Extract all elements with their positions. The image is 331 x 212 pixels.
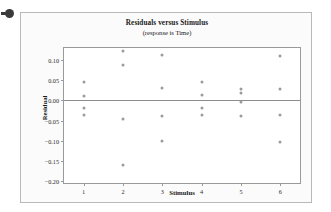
data-point xyxy=(122,163,125,166)
y-axis-tick xyxy=(61,141,64,142)
data-point xyxy=(279,140,282,143)
y-axis-tick xyxy=(61,161,64,162)
data-point xyxy=(161,87,164,90)
zero-reference-line xyxy=(64,100,300,101)
y-axis-tick xyxy=(61,181,64,182)
data-point xyxy=(200,80,203,83)
plot-area: 0.100.050.00−0.05−0.10−0.15−0.20 123456 xyxy=(63,47,301,184)
data-point xyxy=(240,91,243,94)
data-point xyxy=(161,54,164,57)
chart-card: Residuals versus Stimulus (response is T… xyxy=(20,12,312,203)
x-axis-title: Stimulus xyxy=(63,189,301,196)
data-point xyxy=(240,101,243,104)
chart-title-block: Residuals versus Stimulus (response is T… xyxy=(21,18,313,37)
data-point xyxy=(279,54,282,57)
data-point xyxy=(200,114,203,117)
y-axis-tick-label: −0.15 xyxy=(45,157,59,164)
data-point xyxy=(82,94,85,97)
x-axis-tick xyxy=(162,183,163,186)
y-axis-tick xyxy=(61,121,64,122)
data-point xyxy=(200,94,203,97)
y-axis-tick-label: −0.20 xyxy=(45,177,59,184)
y-axis-tick-label: 0.10 xyxy=(48,57,59,64)
data-point xyxy=(161,114,164,117)
data-point xyxy=(240,87,243,90)
x-axis-tick xyxy=(123,183,124,186)
data-point xyxy=(279,87,282,90)
y-axis-tick xyxy=(61,80,64,81)
bullet-dot-icon xyxy=(5,9,14,18)
data-point xyxy=(200,107,203,110)
x-axis-tick xyxy=(84,183,85,186)
y-axis-tick-label: −0.10 xyxy=(45,137,59,144)
x-axis-tick xyxy=(241,183,242,186)
data-point xyxy=(122,50,125,53)
y-axis-tick-label: 0.05 xyxy=(48,77,59,84)
data-point xyxy=(122,63,125,66)
data-point xyxy=(82,80,85,83)
y-axis-tick-label: −0.05 xyxy=(45,117,59,124)
page-title: Residuals versus Stimulus xyxy=(21,18,313,28)
y-axis-tick xyxy=(61,100,64,101)
data-point xyxy=(122,117,125,120)
y-axis-tick-label: 0.00 xyxy=(48,97,59,104)
data-point xyxy=(240,114,243,117)
data-point xyxy=(161,140,164,143)
data-point xyxy=(279,114,282,117)
x-axis-tick xyxy=(202,183,203,186)
data-point xyxy=(82,107,85,110)
y-axis-tick xyxy=(61,60,64,61)
chart-subtitle: (response is Time) xyxy=(21,28,313,37)
data-point xyxy=(82,114,85,117)
x-axis-tick xyxy=(280,183,281,186)
